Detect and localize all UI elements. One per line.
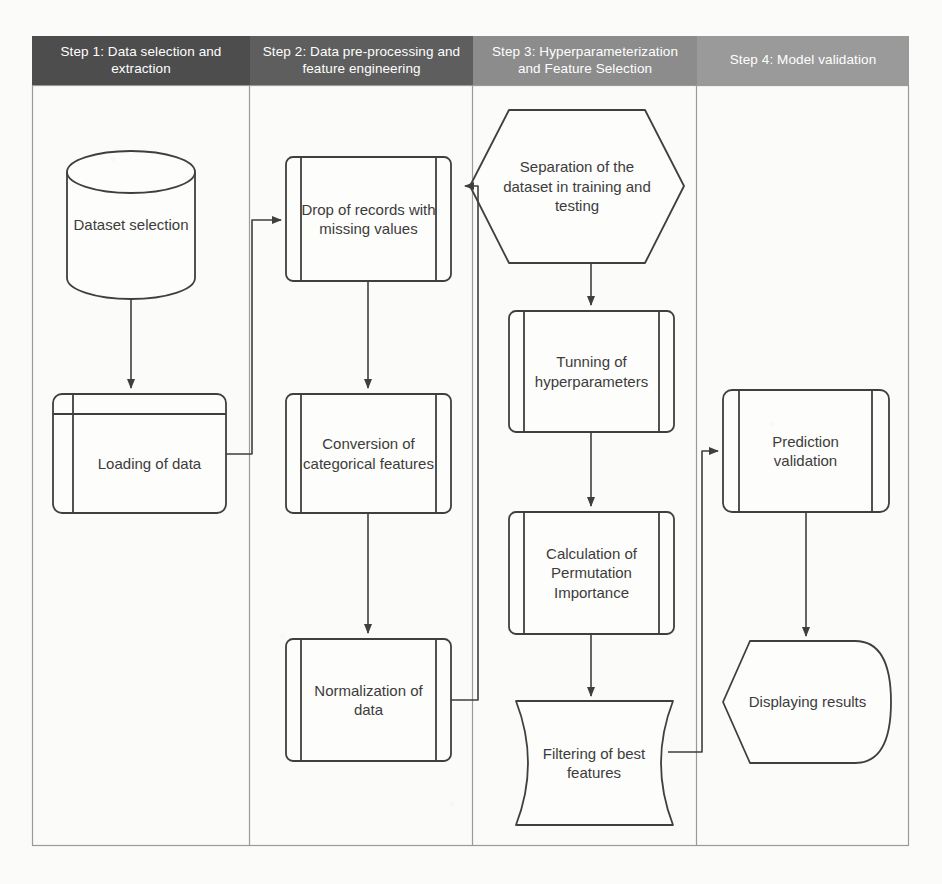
lane-header-step-3: Step 3: Hyperparameterization and Featur… [473, 36, 697, 85]
lane-header-step-4: Step 4: Model validation [697, 36, 909, 85]
node-shape-normalization [286, 639, 451, 761]
node-shape-prediction-validation [723, 390, 889, 512]
edge-filtering-to-prediction [668, 451, 718, 752]
node-shape-dataset-selection [67, 151, 195, 299]
node-shape-permutation-importance [509, 512, 674, 634]
node-shape-conversion-categorical [286, 394, 451, 513]
node-shape-separation-hexagon [470, 110, 684, 263]
lane-header-step-1: Step 1: Data selection and extraction [32, 36, 250, 85]
flowchart-canvas: Step 1: Data selection and extraction St… [0, 0, 942, 884]
node-shape-drop-records [286, 157, 451, 281]
node-shape-displaying-results [723, 641, 891, 763]
edge-normalization-to-separation [451, 186, 478, 700]
node-shape-loading-of-data [53, 394, 226, 513]
node-shape-tunning-hyperparameters [509, 311, 674, 432]
flowchart-vector-layer [0, 0, 942, 884]
edge-loading-to-drop [226, 220, 281, 454]
node-shape-filtering-best-features [516, 701, 673, 825]
lane-header-step-2: Step 2: Data pre-processing and feature … [250, 36, 473, 85]
